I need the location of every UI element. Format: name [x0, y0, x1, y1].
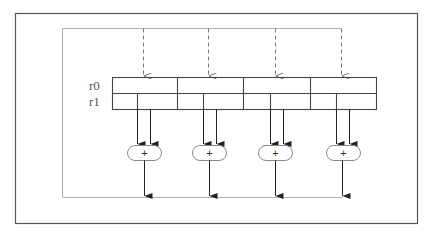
register-block	[113, 78, 377, 110]
register-label-r1: r1	[89, 94, 100, 109]
adder-4: +	[327, 146, 361, 161]
adder-1-op: +	[141, 147, 147, 159]
register-to-adder-arrows	[138, 110, 350, 145]
diagram-canvas: r0 r1 + + +	[0, 0, 432, 233]
adder-2: +	[193, 146, 227, 161]
adder-4-op: +	[340, 147, 346, 159]
adder-3: +	[259, 146, 293, 161]
input-arrows	[144, 29, 342, 77]
register-label-r0: r0	[89, 78, 100, 93]
output-arrows	[145, 161, 343, 197]
adders: + + + +	[128, 146, 361, 161]
adder-1: +	[128, 146, 162, 161]
inner-frame	[63, 29, 344, 198]
adder-2-op: +	[206, 147, 212, 159]
adder-3-op: +	[272, 147, 278, 159]
